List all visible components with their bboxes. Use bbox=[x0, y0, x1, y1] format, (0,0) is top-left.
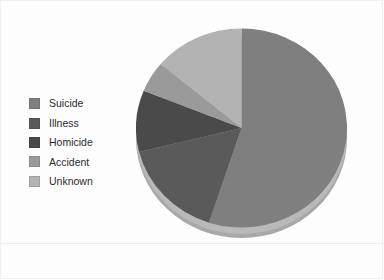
legend-item-unknown[interactable]: Unknown bbox=[29, 172, 139, 191]
chart-figure: Suicide Illness Homicide Accident Unknow… bbox=[0, 0, 384, 280]
chart-legend: Suicide Illness Homicide Accident Unknow… bbox=[29, 94, 139, 191]
pie-chart bbox=[136, 23, 347, 245]
legend-item-accident[interactable]: Accident bbox=[29, 152, 139, 171]
legend-item-label: Suicide bbox=[49, 98, 83, 109]
legend-item-label: Illness bbox=[49, 118, 79, 129]
legend-swatch-icon bbox=[29, 118, 40, 129]
legend-swatch-icon bbox=[29, 176, 40, 187]
legend-item-label: Unknown bbox=[49, 176, 93, 187]
legend-swatch-icon bbox=[29, 156, 40, 167]
legend-item-illness[interactable]: Illness bbox=[29, 113, 139, 132]
legend-swatch-icon bbox=[29, 98, 40, 109]
legend-item-homicide[interactable]: Homicide bbox=[29, 133, 139, 152]
legend-item-suicide[interactable]: Suicide bbox=[29, 94, 139, 113]
legend-item-label: Homicide bbox=[49, 137, 93, 148]
pie-top-face bbox=[136, 23, 347, 233]
legend-item-label: Accident bbox=[49, 157, 89, 168]
legend-swatch-icon bbox=[29, 137, 40, 148]
pie-svg bbox=[136, 23, 347, 233]
